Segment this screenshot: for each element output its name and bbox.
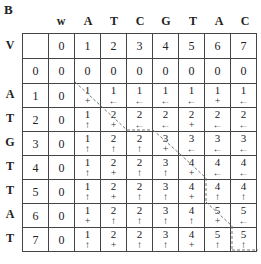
diag-arrow-icon: + — [75, 96, 100, 106]
score-cell: 1↑ — [75, 156, 101, 180]
up-arrow-icon: ↑ — [127, 240, 152, 250]
score-cell: 4↑ — [231, 180, 257, 204]
up-arrow-icon: ↑ — [153, 240, 178, 250]
left-arrow-icon: ← — [231, 120, 256, 130]
row-letter: T — [2, 183, 18, 198]
zero-cell: 0 — [49, 84, 75, 108]
score-cell: 5↑ — [231, 228, 257, 252]
up-arrow-icon: ↑ — [127, 168, 152, 178]
up-arrow-icon: ↑ — [75, 168, 100, 178]
score-cell: 5↑ — [205, 228, 231, 252]
up-arrow-icon: ↑ — [153, 192, 178, 202]
up-arrow-icon: ↑ — [205, 192, 230, 202]
score-cell: 3← — [231, 132, 257, 156]
score-cell: 4+ — [179, 228, 205, 252]
matrix-row: 201↑2+2←2←2+2←2← — [23, 108, 257, 132]
left-arrow-icon: ← — [127, 96, 152, 106]
index-cell: 7 — [231, 34, 257, 59]
left-arrow-icon: ← — [153, 96, 178, 106]
score-cell: 2↑ — [127, 180, 153, 204]
score-cell: 3↑ — [153, 180, 179, 204]
matrix-row: 601+2↑2↑3↑4↑5+5← — [23, 204, 257, 228]
up-arrow-icon: ↑ — [179, 216, 204, 226]
left-arrow-icon: ← — [231, 144, 256, 154]
diag-arrow-icon: + — [179, 192, 204, 202]
up-arrow-icon: ↑ — [231, 240, 256, 250]
zero-cell: 0 — [49, 108, 75, 132]
zero-cell: 0 — [49, 228, 75, 252]
row-index-cell: 4 — [23, 156, 49, 180]
index-cell: 3 — [127, 34, 153, 59]
diag-arrow-icon: + — [205, 216, 230, 226]
score-cell: 5← — [231, 204, 257, 228]
col-seq-label: w — [48, 14, 74, 29]
col-letter: T — [101, 14, 127, 29]
zero-cell: 0 — [49, 132, 75, 156]
zero-cell: 0 — [49, 156, 75, 180]
row-letter: G — [2, 135, 18, 150]
col-letter: C — [232, 14, 258, 29]
dp-matrix: 01234567000000000101+1←1←1←1←1+1←201↑2+2… — [22, 33, 257, 252]
score-cell: 2↑ — [127, 228, 153, 252]
col-letter: T — [180, 14, 206, 29]
score-cell: 3↑ — [153, 228, 179, 252]
score-cell: 3← — [205, 132, 231, 156]
up-arrow-icon: ↑ — [101, 144, 126, 154]
index-row: 01234567 — [23, 34, 257, 59]
up-arrow-icon: ↑ — [75, 240, 100, 250]
diag-arrow-icon: + — [75, 216, 100, 226]
zero-cell: 0 — [231, 59, 257, 84]
matrix-row: 401↑2+2↑3↑4+4←4← — [23, 156, 257, 180]
matrix-row: 701↑2+2↑3↑4+5↑5↑ — [23, 228, 257, 252]
left-arrow-icon: ← — [205, 168, 230, 178]
score-cell: 1↑ — [75, 180, 101, 204]
up-arrow-icon: ↑ — [127, 216, 152, 226]
left-arrow-icon: ← — [179, 144, 204, 154]
zero-cell: 0 — [127, 59, 153, 84]
up-arrow-icon: ↑ — [153, 168, 178, 178]
row-letter: T — [2, 111, 18, 126]
score-cell: 1← — [153, 84, 179, 108]
up-arrow-icon: ↑ — [75, 144, 100, 154]
score-cell: 5+ — [205, 204, 231, 228]
up-arrow-icon: ↑ — [101, 216, 126, 226]
score-cell: 1← — [127, 84, 153, 108]
score-cell: 1↑ — [75, 132, 101, 156]
score-cell: 1↑ — [75, 108, 101, 132]
up-arrow-icon: ↑ — [75, 192, 100, 202]
zero-cell: 0 — [49, 180, 75, 204]
row-letter: T — [2, 159, 18, 174]
left-arrow-icon: ← — [231, 168, 256, 178]
index-cell — [23, 34, 49, 59]
score-cell: 3← — [179, 132, 205, 156]
left-arrow-icon: ← — [101, 96, 126, 106]
score-cell: 2↑ — [127, 132, 153, 156]
left-arrow-icon: ← — [127, 120, 152, 130]
row-seq-label: V — [2, 38, 18, 53]
row-index-cell: 2 — [23, 108, 49, 132]
diag-arrow-icon: + — [179, 240, 204, 250]
up-arrow-icon: ↑ — [75, 120, 100, 130]
left-arrow-icon: ← — [205, 144, 230, 154]
zero-cell: 0 — [101, 59, 127, 84]
score-cell: 4← — [231, 156, 257, 180]
left-arrow-icon: ← — [205, 120, 230, 130]
score-cell: 2+ — [179, 108, 205, 132]
score-cell: 4← — [205, 156, 231, 180]
left-arrow-icon: ← — [153, 120, 178, 130]
row-letter: A — [2, 207, 18, 222]
score-cell: 1← — [179, 84, 205, 108]
score-cell: 1← — [101, 84, 127, 108]
zero-cell: 0 — [49, 59, 75, 84]
diag-arrow-icon: + — [153, 144, 178, 154]
score-cell: 2+ — [101, 180, 127, 204]
index-cell: 4 — [153, 34, 179, 59]
row-index-cell: 5 — [23, 180, 49, 204]
matrix-row: 301↑2↑2↑3+3←3←3← — [23, 132, 257, 156]
diag-arrow-icon: + — [101, 240, 126, 250]
index-cell: 5 — [179, 34, 205, 59]
score-cell: 2← — [153, 108, 179, 132]
score-cell: 4↑ — [205, 180, 231, 204]
zero-cell: 0 — [153, 59, 179, 84]
row-index-cell: 1 — [23, 84, 49, 108]
